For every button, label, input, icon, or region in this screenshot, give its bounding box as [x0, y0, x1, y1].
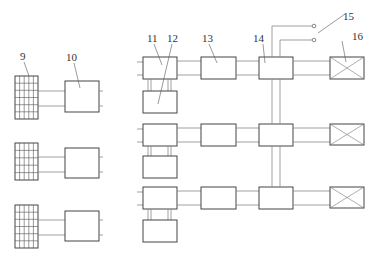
output-terminals — [312, 24, 316, 42]
load-16-1 — [330, 57, 364, 79]
label-10: 10 — [66, 51, 78, 63]
solar-panel-3 — [15, 205, 38, 248]
box-13-1 — [201, 57, 236, 79]
box-13-3 — [201, 187, 236, 209]
label-13: 13 — [202, 32, 214, 44]
box-12-3 — [143, 220, 177, 242]
system-block-diagram: 9 10 11 12 13 14 15 16 — [0, 0, 376, 261]
box-14-1 — [259, 57, 293, 79]
label-11: 11 — [147, 32, 158, 44]
converter-box-10-1 — [65, 81, 99, 112]
label-9: 9 — [20, 50, 26, 62]
label-15: 15 — [343, 10, 355, 22]
box-14-3 — [259, 187, 293, 209]
load-16-2 — [330, 124, 364, 145]
label-14: 14 — [253, 32, 265, 44]
converter-box-10-3 — [65, 211, 99, 241]
box-11-2 — [143, 124, 177, 146]
label-12: 12 — [167, 32, 178, 44]
solar-panel-1 — [15, 76, 38, 119]
box-11-3 — [143, 187, 177, 209]
box-13-2 — [201, 124, 236, 146]
box-12-2 — [143, 156, 177, 178]
box-14-2 — [259, 124, 293, 146]
label-16: 16 — [352, 30, 364, 42]
solar-panel-2 — [15, 143, 38, 180]
load-16-3 — [330, 187, 364, 208]
converter-box-10-2 — [65, 148, 99, 178]
